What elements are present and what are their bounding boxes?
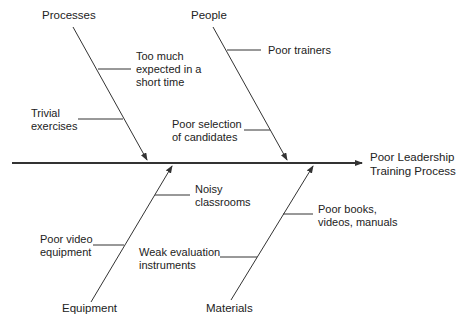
cause-too-much-expected: Too much expected in a short time xyxy=(136,50,201,89)
cause-trivial-exercises: Trivial exercises xyxy=(31,107,77,133)
cause-poor-selection: Poor selection of candidates xyxy=(172,118,242,144)
effect-label: Poor Leadership Training Process xyxy=(370,150,456,178)
category-equipment: Equipment xyxy=(62,302,117,315)
cause-poor-trainers: Poor trainers xyxy=(268,44,331,57)
cause-poor-books: Poor books, videos, manuals xyxy=(318,203,398,229)
cause-noisy-classrooms: Noisy classrooms xyxy=(195,183,251,209)
processes-bone xyxy=(73,27,147,160)
category-people: People xyxy=(191,9,227,22)
equipment-bone xyxy=(91,166,172,302)
cause-weak-evaluation: Weak evaluation instruments xyxy=(139,246,220,272)
cause-poor-video-equipment: Poor video equipment xyxy=(40,233,93,259)
category-processes: Processes xyxy=(42,9,96,22)
category-materials: Materials xyxy=(206,302,253,315)
